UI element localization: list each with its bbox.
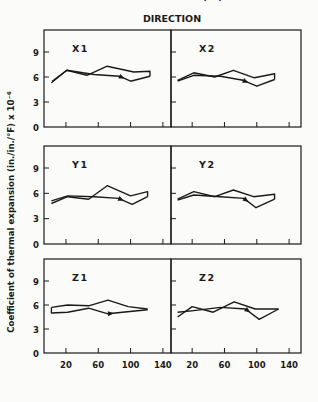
chart-title: DIRECTION	[143, 13, 201, 24]
y-tick-label: 0	[33, 240, 39, 250]
x-tick-label: 140	[154, 360, 172, 370]
y-tick-label: 9	[33, 277, 39, 287]
panel-frame	[44, 30, 171, 127]
x-tick-label: 100	[122, 360, 140, 370]
y-tick-label: 6	[33, 301, 39, 311]
panel-y1: 0369Y1	[33, 146, 171, 250]
x-tick-label: 20	[186, 360, 198, 370]
panel-label: X1	[72, 43, 89, 54]
panel-frame	[171, 146, 301, 244]
arrow-icon	[242, 196, 248, 202]
y-tick-label: 0	[33, 349, 39, 359]
x-tick-label: 60	[92, 360, 104, 370]
series-cooling	[51, 196, 147, 204]
panel-x1: 0369X1	[33, 30, 171, 133]
panel-grid: 0369X1X20369Y1Y203692060100140Z120601001…	[33, 30, 301, 370]
series-heating	[178, 302, 279, 317]
y-tick-label: 3	[33, 98, 39, 108]
series-cooling	[51, 307, 147, 313]
panel-label: Y1	[71, 159, 89, 170]
y-tick-label: 3	[33, 214, 39, 224]
x-tick-label: 60	[219, 360, 231, 370]
panel-label: Y2	[198, 159, 216, 170]
y-tick-label: 3	[33, 325, 39, 335]
y-tick-label: 6	[33, 73, 39, 83]
panel-x2: X2	[171, 30, 301, 127]
y-tick-label: 6	[33, 189, 39, 199]
series-cooling	[178, 195, 275, 208]
series-heating	[51, 186, 147, 204]
panel-label: Z2	[199, 272, 216, 283]
panel-y2: Y2	[171, 146, 301, 244]
y-tick-label: 9	[33, 48, 39, 58]
x-tick-label: 20	[60, 360, 72, 370]
arrow-icon	[244, 307, 250, 313]
arrow-icon	[242, 78, 248, 83]
series-heating	[178, 190, 275, 199]
panel-frame	[171, 259, 301, 353]
y-tick-label: 9	[33, 164, 39, 174]
panel-z1: 03692060100140Z1	[33, 259, 172, 370]
series-heating	[51, 300, 147, 309]
y-axis-label: Coefficient of thermal expansion (in./in…	[6, 91, 16, 333]
y-tick-label: 0	[33, 123, 39, 133]
panel-label: X2	[199, 43, 216, 54]
panel-frame	[44, 146, 171, 244]
x-axis-label: TEMPERATURE (°F)	[121, 0, 222, 2]
x-tick-label: 140	[280, 360, 298, 370]
arrow-icon	[117, 196, 123, 201]
panel-z2: 2060100140Z2	[171, 259, 301, 370]
panel-label: Z1	[72, 272, 89, 283]
figure: DIRECTION 0369X1X20369Y1Y203692060100140…	[0, 0, 318, 402]
x-tick-label: 100	[248, 360, 266, 370]
